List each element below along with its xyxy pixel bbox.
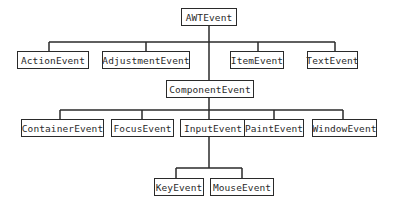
node-input-event: InputEvent [180,119,246,137]
node-item-event: ItemEvent [230,51,284,69]
node-text-event: TextEvent [307,51,358,69]
class-hierarchy-diagram: AWTEvent ActionEvent AdjustmentEvent Ite… [0,0,393,206]
node-awt-event: AWTEvent [181,8,237,26]
node-adjustment-event: AdjustmentEvent [102,51,190,69]
node-paint-event: PaintEvent [244,119,304,137]
node-component-event: ComponentEvent [166,80,254,98]
node-key-event: KeyEvent [154,178,204,196]
node-container-event: ContainerEvent [21,119,104,137]
connector-lines [0,0,393,206]
node-focus-event: FocusEvent [111,119,174,137]
node-action-event: ActionEvent [17,51,89,69]
node-mouse-event: MouseEvent [210,178,274,196]
node-window-event: WindowEvent [312,119,377,137]
